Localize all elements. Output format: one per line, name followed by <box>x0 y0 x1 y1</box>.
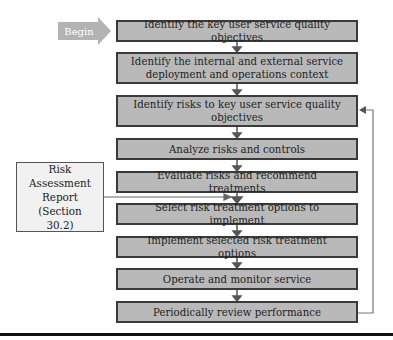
step-analyze-risks: Analyze risks and controls <box>116 138 358 160</box>
step-identify-objectives: Identify the key user service quality ob… <box>116 20 358 42</box>
risk-process-flowchart: Begin Identify the key user service qual… <box>0 0 393 340</box>
bottom-rule <box>0 333 393 336</box>
report-label: Risk Assessment Report (Section 30.2) <box>25 162 95 232</box>
step-select-treatment: Select risk treatment options to impleme… <box>116 203 358 225</box>
risk-assessment-report-box: Risk Assessment Report (Section 30.2) <box>16 162 104 232</box>
step-evaluate-risks: Evaluate risks and recommend treatments <box>116 171 358 193</box>
begin-label: Begin <box>58 20 100 42</box>
step-operate-monitor: Operate and monitor service <box>116 268 358 290</box>
step-implement-treatment: Implement selected risk treatment option… <box>116 236 358 258</box>
step-review-performance: Periodically review performance <box>116 301 358 323</box>
step-identify-risks: Identify risks to key user service quali… <box>116 95 358 127</box>
step-identify-context: Identify the internal and external servi… <box>116 52 358 84</box>
